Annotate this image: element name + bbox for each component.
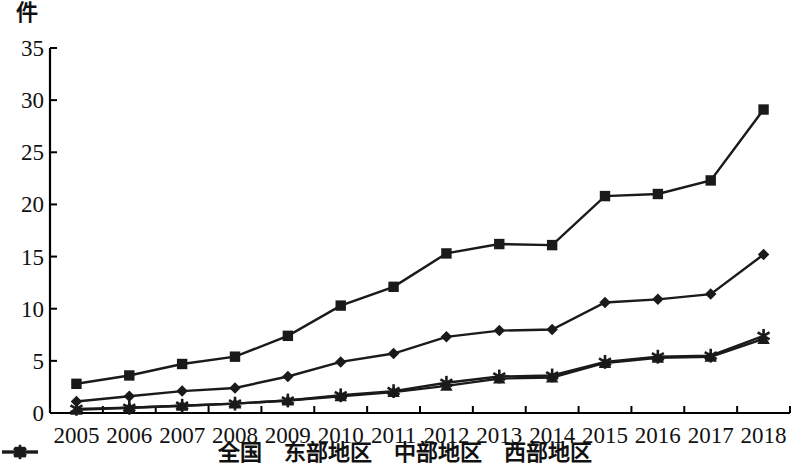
legend-label: 西部地区 (504, 442, 592, 464)
data-point-marker (283, 331, 293, 341)
data-point-marker (441, 331, 453, 343)
data-point-marker (494, 325, 506, 337)
data-point-marker (653, 189, 663, 199)
data-point-marker (229, 382, 241, 394)
legend-label: 全国 (218, 442, 262, 464)
data-point-marker (600, 191, 610, 201)
data-point-marker (388, 348, 400, 360)
data-point-marker (441, 248, 451, 258)
series-line (76, 339, 763, 410)
data-point-marker (177, 359, 187, 369)
data-point-marker (124, 370, 134, 380)
data-point-marker (652, 294, 664, 306)
series-line (76, 254, 763, 401)
data-point-marker (71, 379, 81, 389)
data-point-marker (758, 104, 768, 114)
data-point-marker (335, 356, 347, 368)
legend-item-2[interactable]: 中部地区 (394, 442, 482, 464)
chart-legend: 全国东部地区中部地区西部地区 (0, 442, 810, 464)
legend-item-3[interactable]: 西部地区 (504, 442, 592, 464)
legend-item-1[interactable]: 东部地区 (284, 442, 372, 464)
data-point-marker (546, 324, 558, 336)
data-point-marker (599, 297, 611, 309)
plot-area (0, 0, 810, 469)
legend-marker-asterisk-icon (0, 442, 40, 462)
data-point-marker (230, 351, 240, 361)
legend-label: 中部地区 (394, 442, 482, 464)
data-point-marker (282, 371, 294, 383)
series-asterisk (70, 329, 769, 416)
data-point-marker (388, 282, 398, 292)
series-line (76, 336, 763, 409)
data-point-marker (176, 385, 188, 397)
data-point-marker (494, 239, 504, 249)
series-line (76, 110, 763, 384)
legend-label: 东部地区 (284, 442, 372, 464)
legend-item-0[interactable]: 全国 (218, 442, 262, 464)
data-point-marker (124, 391, 136, 403)
series-diamond (71, 249, 770, 408)
data-point-marker (706, 175, 716, 185)
data-point-marker (547, 240, 557, 250)
line-chart: 件 05101520253035 20052006200720082009201… (0, 0, 810, 469)
data-point-marker (336, 300, 346, 310)
